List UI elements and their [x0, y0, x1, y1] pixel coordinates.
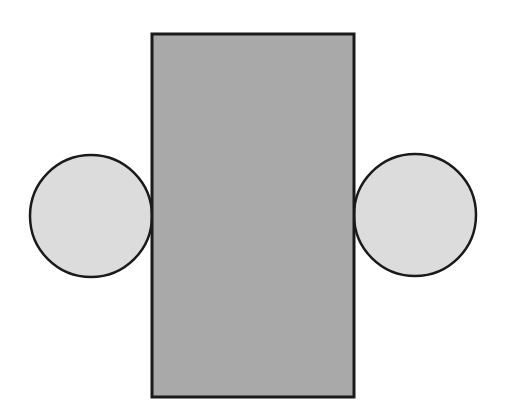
diagram-canvas	[0, 0, 507, 414]
center-rectangle	[152, 34, 354, 397]
right-circle	[354, 154, 476, 276]
left-circle	[30, 155, 152, 277]
